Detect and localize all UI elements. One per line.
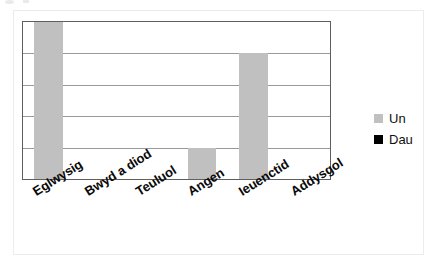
bar-un-4	[239, 53, 268, 179]
legend-swatch-icon	[374, 135, 383, 144]
bar-group	[228, 22, 279, 179]
legend-label: Un	[389, 112, 406, 125]
chart-legend: UnDau	[374, 108, 434, 150]
bar-group	[177, 22, 228, 179]
bar-group	[279, 22, 330, 179]
legend-swatch-icon	[374, 114, 383, 123]
legend-label: Dau	[389, 133, 413, 146]
bar-un-0	[34, 22, 63, 179]
bar-group	[23, 22, 74, 179]
bar-chart: EglwysigBwyd a diodTeuluolAngenIeuenctid…	[0, 0, 439, 267]
x-axis-labels: EglwysigBwyd a diodTeuluolAngenIeuenctid…	[22, 180, 331, 260]
bars-layer	[23, 22, 330, 179]
legend-item-un[interactable]: Un	[374, 108, 434, 129]
plot-area	[22, 21, 331, 180]
legend-item-dau[interactable]: Dau	[374, 129, 434, 150]
bar-group	[74, 22, 125, 179]
